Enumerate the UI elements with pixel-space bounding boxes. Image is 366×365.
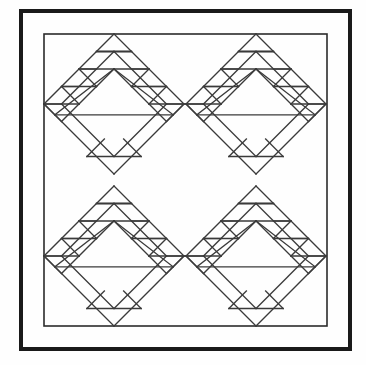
quilt-svg-canvas [0,0,366,365]
quilt-diagram [0,0,366,365]
diagram-background [0,0,366,365]
